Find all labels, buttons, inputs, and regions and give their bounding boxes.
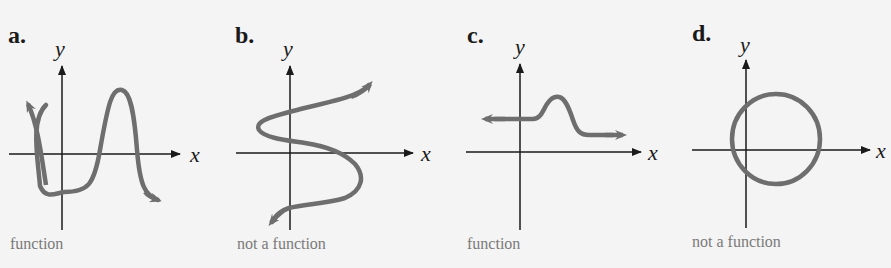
graph-c [455,0,670,268]
panel-d: d. y x not a function [670,0,891,268]
y-axis-label: y [283,36,293,62]
x-axis-label: x [190,142,200,168]
y-axis-label: y [55,36,65,62]
y-axis-label: y [515,34,525,60]
x-axis-label: x [648,140,658,166]
caption: function [467,235,520,253]
panel-b: b. y x not a function [225,0,455,268]
panel-a: a. y x function [0,0,225,268]
x-axis-label: x [421,141,431,167]
caption: function [10,235,63,253]
y-axis-label: y [740,32,750,58]
graph-a [0,0,225,268]
panel-c: c. y x function [455,0,670,268]
curve [36,90,158,200]
graph-d [670,0,891,268]
caption: not a function [692,233,781,251]
graph-b [225,0,455,268]
circle-curve [732,94,820,184]
caption: not a function [237,235,326,253]
curve [495,97,613,135]
x-axis-label: x [876,138,886,164]
